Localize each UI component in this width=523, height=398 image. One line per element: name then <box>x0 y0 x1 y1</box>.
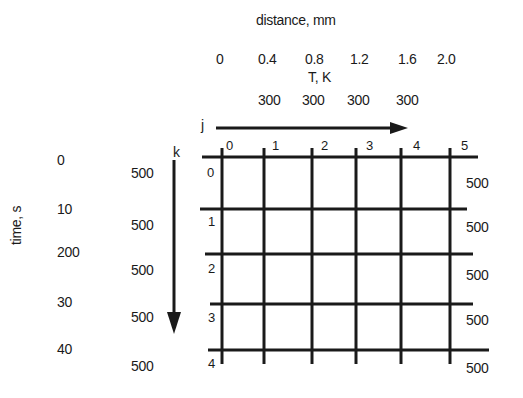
k-arrow-head <box>167 312 181 334</box>
j-arrow-head <box>390 122 408 134</box>
grid-graphic <box>0 0 523 398</box>
